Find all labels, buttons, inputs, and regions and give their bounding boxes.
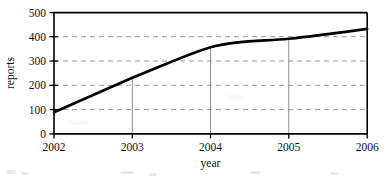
x-tick-label-2005: 2005 <box>277 141 300 153</box>
scan-artifact <box>330 172 338 175</box>
line-chart-figure: 500 400 300 200 100 0 2002 2003 2004 200… <box>0 0 386 178</box>
x-axis-title: year <box>201 157 221 170</box>
chart-svg: 500 400 300 200 100 0 2002 2003 2004 200… <box>0 0 386 178</box>
y-axis-title: reports <box>4 57 17 89</box>
scan-artifact <box>120 171 134 174</box>
scan-artifact <box>70 120 88 125</box>
y-tick-label-300: 300 <box>29 55 47 67</box>
x-tick-label-2006: 2006 <box>356 141 379 153</box>
y-tick-label-100: 100 <box>29 104 47 116</box>
scan-artifact <box>225 95 245 100</box>
y-tick-label-0: 0 <box>40 128 46 140</box>
y-tick-label-500: 500 <box>29 7 47 19</box>
scan-artifact <box>250 171 261 174</box>
scan-artifact <box>22 172 28 175</box>
y-tick-labels: 500 400 300 200 100 0 <box>29 7 47 140</box>
x-tick-label-2004: 2004 <box>199 141 222 153</box>
scan-artifact <box>148 173 157 176</box>
x-tick-labels: 2002 2003 2004 2005 2006 <box>43 141 379 153</box>
y-tick-label-200: 200 <box>29 79 47 91</box>
x-tick-label-2003: 2003 <box>121 141 144 153</box>
y-tick-label-400: 400 <box>29 31 47 43</box>
scan-artifact <box>6 170 16 174</box>
x-tick-label-2002: 2002 <box>43 141 66 153</box>
